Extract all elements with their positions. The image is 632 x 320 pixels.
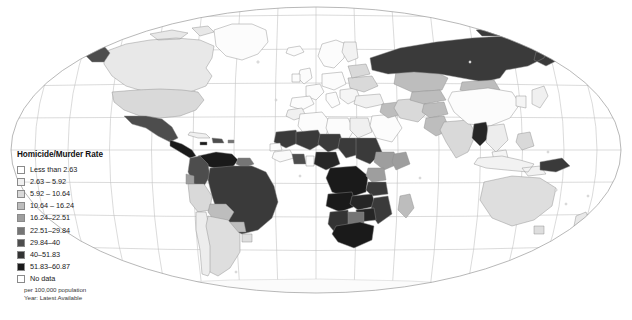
legend-swatch-no-data xyxy=(17,275,25,283)
country-ivory-coast xyxy=(292,154,306,164)
legend-swatch-6 xyxy=(17,239,25,247)
legend-swatch-3 xyxy=(17,202,25,210)
legend-item-no-data[interactable]: No data xyxy=(17,273,145,285)
legend-title: Homicide/Murder Rate xyxy=(17,150,145,159)
legend-note-year: Year: Latest Available xyxy=(24,294,145,302)
country-tasmania xyxy=(534,226,544,234)
legend-label-4: 16.24–22.51 xyxy=(30,214,70,222)
legend-label-no-data: No data xyxy=(30,275,55,283)
legend-label-3: 10.64 – 16.24 xyxy=(30,202,74,210)
country-uruguay xyxy=(242,234,252,242)
legend-swatch-5 xyxy=(17,227,25,235)
legend-item[interactable]: Less than 2.63 xyxy=(17,164,145,176)
legend-label-5: 22.51–29.84 xyxy=(30,227,70,235)
country-ghana xyxy=(306,156,314,166)
legend-swatch-8 xyxy=(17,263,25,271)
country-senegal xyxy=(270,143,282,151)
legend-item[interactable]: 22.51–29.84 xyxy=(17,224,145,236)
legend-label-6: 29.84–40 xyxy=(30,239,60,247)
country-jamaica xyxy=(200,142,207,145)
legend-swatch-4 xyxy=(17,214,25,222)
legend-item[interactable]: 16.24–22.51 xyxy=(17,212,145,224)
legend-swatch-7 xyxy=(17,251,25,259)
map-page: Homicide/Murder Rate Less than 2.63 2.63… xyxy=(0,0,632,320)
legend-notes: per 100,000 population Year: Latest Avai… xyxy=(17,286,145,302)
legend-swatch-2 xyxy=(17,190,25,198)
legend-item[interactable]: 5.92 – 10.64 xyxy=(17,188,145,200)
legend-item[interactable]: 51.83–60.87 xyxy=(17,261,145,273)
legend-label-8: 51.83–60.87 xyxy=(30,263,70,271)
legend-label-2: 5.92 – 10.64 xyxy=(30,190,70,198)
country-ecuador xyxy=(186,174,194,184)
country-koreas xyxy=(516,96,526,108)
legend-item[interactable]: 10.64 – 16.24 xyxy=(17,200,145,212)
country-ireland xyxy=(292,74,300,82)
legend-swatch-1 xyxy=(17,178,25,186)
legend-swatch-0 xyxy=(17,166,25,174)
legend-item[interactable]: 40–51.83 xyxy=(17,249,145,261)
legend-item[interactable]: 29.84–40 xyxy=(17,237,145,249)
legend-label-7: 40–51.83 xyxy=(30,251,60,259)
legend-label-1: 2.63 – 5.92 xyxy=(30,178,66,186)
map-legend: Homicide/Murder Rate Less than 2.63 2.63… xyxy=(17,150,145,302)
country-puerto-rico xyxy=(228,140,234,143)
legend-note-unit: per 100,000 population xyxy=(24,286,145,294)
legend-label-0: Less than 2.63 xyxy=(30,166,77,174)
legend-item[interactable]: 2.63 – 5.92 xyxy=(17,176,145,188)
